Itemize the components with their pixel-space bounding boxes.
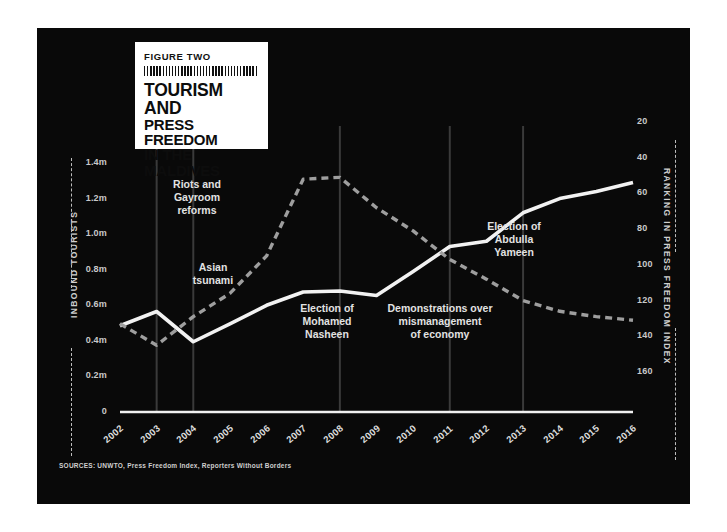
left-tick-0_4m: 0.4m — [73, 335, 107, 345]
right-tick-120: 120 — [637, 295, 671, 305]
source-note: SOURCES: UNWTO, Press Freedom Index, Rep… — [59, 462, 291, 469]
right-tick-80: 80 — [637, 223, 671, 233]
left-tick-0: 0 — [73, 406, 107, 416]
left-tick-1_4m: 1.4m — [73, 157, 107, 167]
page-title: TOURISM AND PRESS FREEDOM IN THE MALDIVE… — [144, 81, 259, 179]
right-tick-20: 20 — [637, 116, 671, 126]
left-tick-1_0m: 1.0m — [73, 228, 107, 238]
left-tick-1_2m: 1.2m — [73, 193, 107, 203]
annotation-2003: Riots and Gayroom reforms — [155, 178, 239, 217]
chart-panel: FIGURE TWO TOURISM AND PRESS FREEDOM IN … — [37, 28, 690, 504]
barcode-decoration — [144, 66, 259, 76]
right-tick-40: 40 — [637, 152, 671, 162]
left-axis-dash-upper — [71, 158, 72, 288]
right-tick-100: 100 — [637, 259, 671, 269]
right-tick-60: 60 — [637, 187, 671, 197]
annotation-2013: Election of Abdulla Yameen — [469, 220, 559, 259]
title-line-1: TOURISM AND — [144, 81, 259, 117]
left-tick-0_2m: 0.2m — [73, 370, 107, 380]
annotation-2004: Asian tsunami — [175, 261, 251, 287]
title-line-2: PRESS FREEDOM — [144, 117, 259, 148]
annotation-2011: Demonstrations over mismanagement of eco… — [375, 302, 505, 341]
title-line-3: IN THE MALDIVES — [144, 147, 259, 178]
annotation-2008: Election of Mohamed Nasheen — [282, 302, 372, 341]
right-tick-140: 140 — [637, 330, 671, 340]
title-card: FIGURE TWO TOURISM AND PRESS FREEDOM IN … — [135, 42, 268, 149]
right-axis-dash-lower — [675, 328, 676, 460]
left-tick-0_8m: 0.8m — [73, 264, 107, 274]
figure-number-label: FIGURE TWO — [144, 52, 259, 62]
left-tick-0_6m: 0.6m — [73, 299, 107, 309]
right-axis-dash-upper — [675, 140, 676, 252]
right-tick-160: 160 — [637, 366, 671, 376]
figure-canvas: FIGURE TWO TOURISM AND PRESS FREEDOM IN … — [0, 0, 727, 532]
left-axis-dash-lower — [71, 348, 72, 456]
